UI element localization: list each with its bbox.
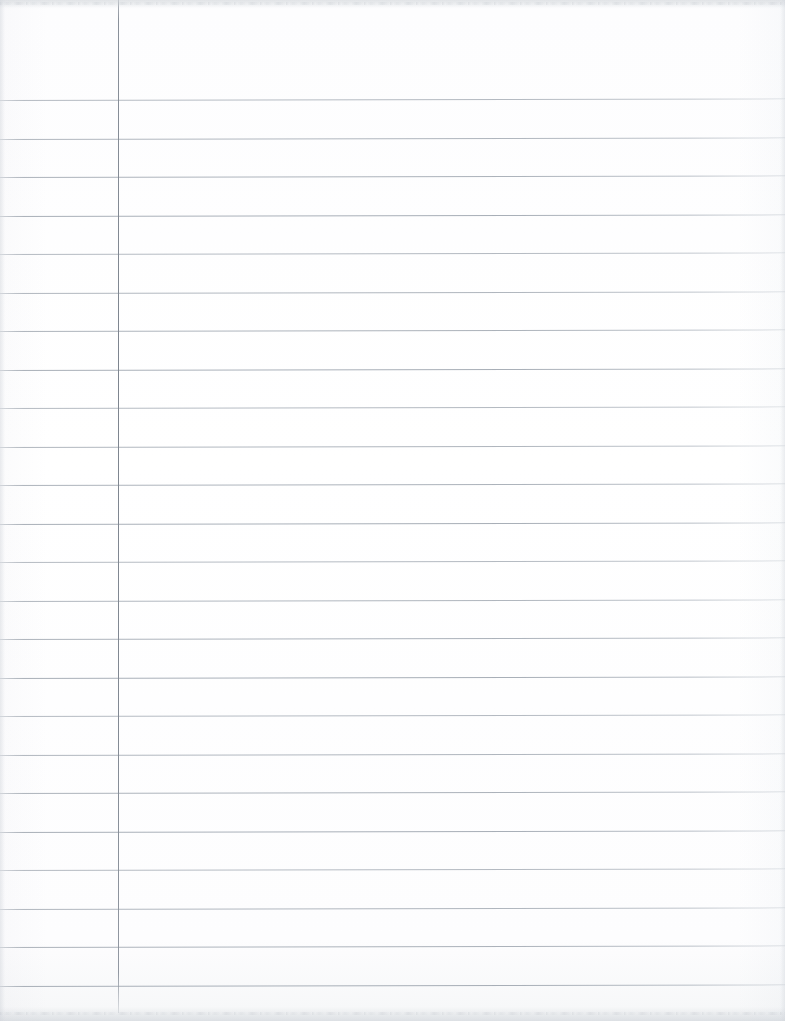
scanned-page [0, 0, 785, 1021]
vertical-margin-rule [118, 0, 119, 1013]
